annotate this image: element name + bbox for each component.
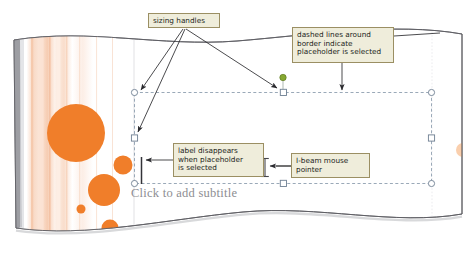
decor-circle xyxy=(88,174,120,206)
decor-circle xyxy=(47,104,105,162)
decor-circle xyxy=(456,143,470,157)
decor-circle xyxy=(77,205,86,214)
callout-line: pointer xyxy=(296,166,365,175)
callout-dashed-border: dashed lines around border indicate plac… xyxy=(292,27,394,63)
callout-label-disappears: label disappears when placeholder is sel… xyxy=(173,143,264,177)
callout-line: placeholder is selected xyxy=(297,48,389,57)
torn-page-illustration xyxy=(0,0,474,261)
callout-line: sizing handles xyxy=(153,17,215,26)
callout-sizing-handles: sizing handles xyxy=(148,13,220,28)
callout-i-beam-pointer: I-beam mouse pointer xyxy=(291,153,370,178)
subtitle-placeholder-prompt[interactable]: Click to add subtitle xyxy=(131,186,237,201)
callout-line: is selected xyxy=(178,164,259,173)
figure-canvas: Click to add subtitle xyxy=(0,0,474,261)
decor-circle xyxy=(114,156,133,175)
